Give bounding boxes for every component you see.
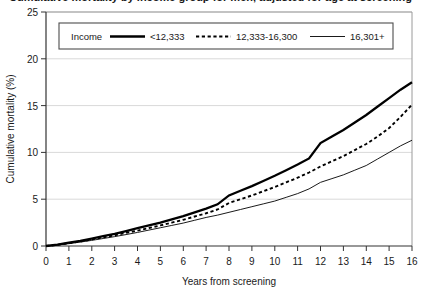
legend-label-12333-16300: 12,333-16,300 <box>236 31 297 42</box>
x-axis-ticks <box>46 246 412 251</box>
x-tick-label: 6 <box>181 256 187 267</box>
x-tick-label: 10 <box>269 256 281 267</box>
y-tick-label: 20 <box>27 54 39 65</box>
data-series-group <box>46 82 412 246</box>
y-axis-tick-labels: 25 20 15 10 5 0 <box>27 7 39 252</box>
x-tick-label: 1 <box>66 256 72 267</box>
y-tick-label: 0 <box>32 241 38 252</box>
x-tick-label: 16 <box>406 256 418 267</box>
x-tick-label: 11 <box>292 256 303 267</box>
x-tick-label: 13 <box>338 256 350 267</box>
legend-label-under12333: <12,333 <box>150 31 185 42</box>
figure-container: Cumulative mortality by income group for… <box>0 0 421 295</box>
y-tick-label: 5 <box>32 194 38 205</box>
legend-label-16301plus: 16,301+ <box>350 31 385 42</box>
y-tick-label: 15 <box>27 101 39 112</box>
x-tick-label: 4 <box>135 256 141 267</box>
x-tick-label: 9 <box>249 256 255 267</box>
line-chart: 25 20 15 10 5 0 Cumulative mortality (%) <box>0 0 421 295</box>
legend-title: Income <box>71 31 102 42</box>
series-line-12333-16300 <box>46 105 412 246</box>
x-tick-label: 12 <box>315 256 327 267</box>
series-line-16301plus <box>46 140 412 246</box>
y-axis-title: Cumulative mortality (%) <box>5 75 16 184</box>
x-axis-tick-labels: 0 1 2 3 4 5 6 7 8 9 10 11 12 13 14 15 16 <box>43 256 418 267</box>
x-axis-title: Years from screening <box>182 276 276 287</box>
x-tick-label: 14 <box>361 256 373 267</box>
x-tick-label: 5 <box>158 256 164 267</box>
series-line-under12333 <box>46 82 412 246</box>
x-tick-label: 8 <box>226 256 232 267</box>
x-tick-label: 2 <box>89 256 95 267</box>
x-tick-label: 7 <box>203 256 209 267</box>
y-tick-label: 10 <box>27 147 39 158</box>
y-tick-label: 25 <box>27 7 39 18</box>
x-tick-label: 15 <box>384 256 396 267</box>
x-tick-label: 0 <box>43 256 49 267</box>
y-axis-ticks <box>41 12 46 246</box>
legend: Income <12,333 12,333-16,300 16,301+ <box>59 23 393 49</box>
x-tick-label: 3 <box>112 256 118 267</box>
